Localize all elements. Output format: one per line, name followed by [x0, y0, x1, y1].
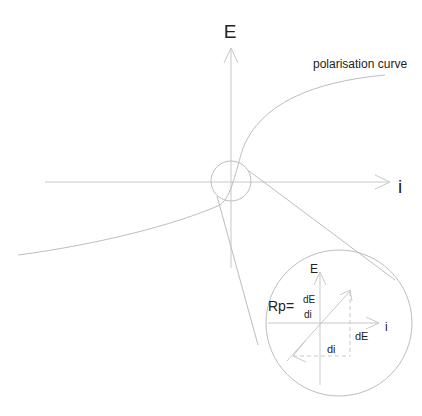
main-i-axis	[45, 175, 390, 189]
main-e-axis-label: E	[224, 21, 237, 42]
inset-e-axis-label: E	[310, 262, 318, 276]
inset-i-axis	[268, 317, 379, 329]
connector-line-left	[217, 196, 258, 345]
inset-tangent-line	[287, 290, 351, 361]
polarisation-curve-label: polarisation curve	[313, 57, 407, 71]
rp-formula-denominator: di	[304, 309, 312, 320]
main-i-axis-label: i	[398, 176, 402, 197]
inset-tangent-arrowhead-bottom	[293, 340, 306, 362]
polarisation-curve	[18, 75, 385, 255]
main-e-axis	[224, 48, 238, 268]
connector-line-right	[249, 171, 395, 280]
polarisation-diagram: E i polarisation curve E i Rp= dE di dE …	[0, 0, 422, 416]
delta-i-label: di	[327, 343, 336, 355]
delta-e-label: dE	[355, 330, 368, 342]
rp-formula-numerator: dE	[303, 294, 316, 305]
rp-formula-lhs: Rp=	[268, 298, 294, 314]
rp-formula: Rp= dE di	[268, 294, 316, 320]
inset-i-axis-label: i	[385, 320, 388, 334]
